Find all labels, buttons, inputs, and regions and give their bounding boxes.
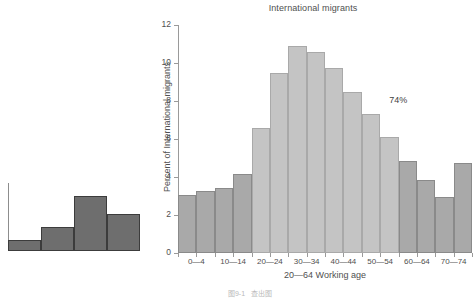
bar bbox=[270, 73, 288, 254]
x-tick bbox=[435, 253, 436, 257]
thumbnail-plot-area bbox=[8, 183, 140, 259]
bar bbox=[399, 161, 417, 253]
y-tick-label: 8 bbox=[166, 95, 171, 105]
thumbnail-bar bbox=[74, 196, 107, 251]
bar bbox=[178, 195, 196, 253]
y-tick-label: 2 bbox=[166, 209, 171, 219]
x-tick-label: 60—64 bbox=[404, 257, 430, 266]
thumbnail-histogram-figure bbox=[0, 183, 140, 259]
x-tick bbox=[288, 253, 289, 257]
x-tick-label: 20—24 bbox=[257, 257, 283, 266]
x-tick-label: 40—44 bbox=[330, 257, 356, 266]
bar bbox=[380, 137, 398, 253]
x-tick bbox=[362, 253, 363, 257]
caption-number: 图9-1 bbox=[228, 290, 245, 297]
x-tick bbox=[399, 253, 400, 257]
figure-caption: 图9-1查出图 bbox=[150, 288, 350, 298]
x-tick-label: 10—14 bbox=[220, 257, 246, 266]
x-tick-label: 0—4 bbox=[188, 257, 205, 266]
bar bbox=[454, 163, 472, 253]
x-tick bbox=[325, 253, 326, 257]
main-chart-figure: International migrants Percent of Intern… bbox=[150, 0, 476, 299]
y-tick: 4 bbox=[174, 177, 178, 178]
bar bbox=[196, 191, 214, 253]
bar bbox=[288, 46, 306, 253]
bar bbox=[233, 174, 251, 253]
x-tick-label: 70—74 bbox=[441, 257, 467, 266]
bar bbox=[325, 68, 343, 253]
x-tick-label: 50—54 bbox=[367, 257, 393, 266]
percent-annotation: 74% bbox=[389, 95, 407, 105]
caption-text: 查出图 bbox=[251, 290, 272, 297]
plot-area: 024681012 0—410—1420—2430—3440—4450—5460… bbox=[178, 25, 472, 253]
x-axis-title: 20—64 Working age bbox=[178, 270, 472, 280]
bar bbox=[417, 180, 435, 253]
bar bbox=[343, 92, 361, 254]
x-tick bbox=[215, 253, 216, 257]
y-tick: 10 bbox=[174, 63, 178, 64]
y-tick-label: 0 bbox=[166, 247, 171, 257]
bar bbox=[435, 197, 453, 253]
bar bbox=[252, 128, 270, 253]
y-tick: 12 bbox=[174, 25, 178, 26]
chart-title: International migrants bbox=[150, 3, 476, 13]
thumbnail-bar bbox=[107, 214, 140, 251]
bar bbox=[307, 52, 325, 253]
y-tick: 6 bbox=[174, 139, 178, 140]
y-tick-label: 10 bbox=[162, 57, 171, 67]
y-tick-label: 6 bbox=[166, 133, 171, 143]
y-tick-label: 4 bbox=[166, 171, 171, 181]
x-tick bbox=[472, 253, 473, 257]
x-tick bbox=[178, 253, 179, 257]
x-tick-label: 30—34 bbox=[294, 257, 320, 266]
x-tick bbox=[252, 253, 253, 257]
y-tick-label: 12 bbox=[162, 19, 171, 29]
y-tick: 8 bbox=[174, 101, 178, 102]
bar bbox=[362, 114, 380, 253]
bar bbox=[215, 188, 233, 253]
thumbnail-bars bbox=[8, 189, 140, 251]
thumbnail-bar bbox=[8, 240, 41, 251]
thumbnail-bar bbox=[41, 227, 74, 251]
y-axis-title: Percent of International migrants bbox=[162, 42, 172, 212]
